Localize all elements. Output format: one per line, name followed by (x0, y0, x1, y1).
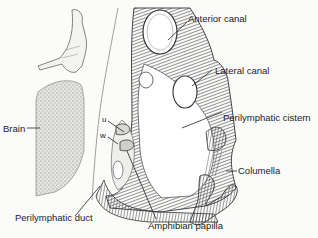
diagram-canvas: Anterior canal Lateral canal Perilymphat… (0, 0, 318, 238)
lateral-canal-shape (173, 76, 197, 108)
label-columella: Columella (238, 166, 280, 176)
label-brain: Brain (3, 124, 25, 134)
label-lateral-canal: Lateral canal (215, 66, 269, 76)
label-anterior-canal: Anterior canal (188, 14, 247, 24)
label-u: u (102, 116, 106, 124)
label-amphibian-papilla: Amphibian papilla (148, 221, 223, 231)
skull-fragment (38, 10, 87, 73)
brain-shape (36, 81, 84, 196)
label-perilymphatic-cistern: Perilymphatic cistern (223, 113, 311, 123)
label-perilymphatic-duct: Perilymphatic duct (15, 213, 93, 223)
perilymphatic-cistern-shape (206, 127, 226, 150)
anterior-canal-shape (143, 10, 177, 54)
label-w: w (100, 132, 106, 140)
